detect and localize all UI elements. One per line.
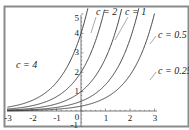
y-tick-label: -1 (71, 120, 79, 130)
y-tick-label: 3 (75, 47, 80, 57)
y-tick-label: 5 (75, 13, 80, 23)
x-tick-label: 3 (153, 113, 158, 123)
y-tick-label: 4 (75, 28, 80, 38)
curve-label-c05: c = 0.5 (158, 29, 187, 40)
curve-label-c4: c = 4 (16, 59, 37, 70)
x-tick-label: -1 (53, 113, 61, 123)
curve-label-c025: c = 0.25 (158, 65, 189, 76)
x-tick-label: 2 (128, 113, 133, 123)
curve-label-c2: c = 2 (96, 6, 117, 17)
x-tick-label: 1 (104, 113, 109, 123)
x-tick-label: -3 (4, 113, 12, 123)
y-tick-label: 1 (75, 86, 80, 96)
curve-label-c1: c = 1 (125, 6, 146, 17)
x-tick-label: -2 (29, 113, 37, 123)
y-tick-label: 2 (75, 67, 80, 77)
exponential-family-chart: -3 -2 -1 0 1 2 3 -1 1 2 3 4 5 c = 4 c = … (0, 0, 189, 130)
